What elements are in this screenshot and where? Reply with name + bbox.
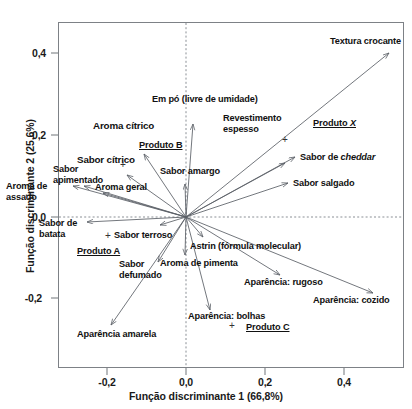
label-aroma-geral: Aroma geral [95, 182, 147, 193]
label-sabor-de: Sabor de [300, 152, 341, 162]
label-aparencia-cozido: Aparência: cozido [313, 295, 390, 306]
label-aroma-pimenta: Aroma de pimenta [160, 258, 238, 269]
product-marker-a: + [105, 232, 111, 240]
vector-aroma-pimenta [185, 217, 186, 255]
label-textura-crocante: Textura crocante [330, 36, 401, 47]
plot-canvas [0, 0, 412, 409]
label-sabor-cheddar: Sabor de cheddar [300, 152, 375, 163]
vector-sabor-amargo [185, 184, 186, 217]
xtick-label-neg0-2: -0,2 [87, 376, 127, 388]
product-marker-x: + [282, 136, 288, 144]
label-sabor-defumado-line1: Sabor [119, 259, 144, 269]
xtick-label-0-2: 0,2 [245, 376, 285, 388]
xtick-label-0-4: 0,4 [324, 376, 364, 388]
label-revestimento-line2: espesso [223, 124, 259, 134]
x-axis-title: Função discriminante 1 (66,8%) [0, 390, 412, 402]
label-revestimento-espesso: Revestimento espesso [223, 113, 291, 134]
product-label-a: Produto A [77, 246, 120, 256]
label-aroma-assado: Aroma de assado [6, 181, 56, 202]
label-revestimento-line1: Revestimento [223, 113, 281, 123]
product-label-b: Produto B [139, 140, 183, 150]
product-marker-c: + [229, 322, 235, 330]
label-aroma-assado-line1: Aroma de [6, 181, 47, 191]
label-cheddar: cheddar [341, 152, 376, 162]
label-sabor-terroso: Sabor terroso [114, 230, 172, 241]
product-label-x: Produto X [313, 118, 356, 128]
label-sabor-batata-line2: batata [39, 229, 65, 239]
product-x-prefix: Produto [313, 118, 350, 128]
label-aroma-assado-line2: assado [6, 192, 37, 202]
label-aparencia-bolhas: Aparência: bolhas [188, 311, 265, 322]
label-astrin: Astrin (fórmula molecular) [190, 241, 301, 252]
ytick-label-0-4: 0,4 [12, 47, 46, 59]
label-sabor-batata-line1: Sabor de [39, 218, 77, 228]
label-aroma-citrico: Aroma cítrico [93, 121, 154, 132]
vector-sabor-salgado [186, 183, 288, 217]
label-aparencia-amarela: Aparência amarela [77, 329, 156, 340]
label-aparencia-rugoso: Aparência: rugoso [244, 277, 323, 288]
product-label-c: Produto C [246, 322, 290, 332]
label-em-po: Em pó (livre de umidade) [152, 94, 258, 105]
label-sabor-amargo: Sabor amargo [160, 166, 220, 177]
label-sabor-salgado: Sabor salgado [293, 178, 354, 189]
xtick-label-0-0: 0,0 [166, 376, 206, 388]
discriminant-biplot-figure: -0,2 0,0 0,2 0,4 0,4 0,2 0,0 -0,2 Função… [0, 0, 412, 409]
label-sabor-apimentado-line1: Sabor [53, 164, 78, 174]
product-x-letter: X [350, 118, 356, 128]
label-sabor-defumado-line2: defumado [119, 270, 162, 280]
label-sabor-batata: Sabor de batata [39, 218, 87, 239]
product-marker-b: + [120, 161, 126, 169]
